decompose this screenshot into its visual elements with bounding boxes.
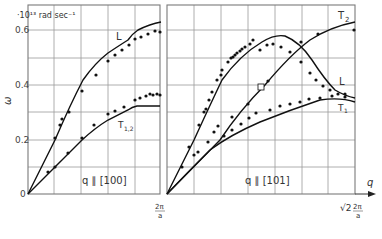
x-axis-label: q xyxy=(367,177,373,188)
left-T-sub: 1,2 xyxy=(124,125,134,132)
ytick-04: 0.4 xyxy=(15,80,30,90)
left-L-curve xyxy=(28,22,161,194)
right-end-prefix: √2 xyxy=(340,203,351,213)
left-panel-curves xyxy=(28,22,161,194)
ytick-0: 0 xyxy=(20,189,26,199)
left-L-label: L xyxy=(116,31,122,42)
ytick-02: 0.2 xyxy=(15,135,29,145)
open-square-marker xyxy=(258,84,264,90)
y-unit-label: ·10¹³ rad sec⁻¹ xyxy=(17,11,75,20)
ytick-06: 0.6 xyxy=(15,25,30,35)
right-T2-sub: 2 xyxy=(345,16,349,24)
right-end-num: 2π xyxy=(353,203,362,211)
left-panel-points xyxy=(46,29,161,173)
right-T2-curve xyxy=(167,22,355,194)
right-panel-curves xyxy=(167,22,355,194)
left-T-label: T xyxy=(117,120,124,130)
right-end-den: a xyxy=(356,212,360,220)
right-T2-label: T xyxy=(337,10,345,21)
left-panel-label: q ∥ [100] xyxy=(82,175,127,187)
y-axis-label: ω xyxy=(2,97,13,105)
right-T1-label: T xyxy=(337,103,344,113)
right-L-label: L xyxy=(339,76,345,87)
right-panel-label: q ∥ [101] xyxy=(245,175,290,187)
left-end-num: 2π xyxy=(155,203,164,211)
right-T1-sub: 1 xyxy=(344,107,348,114)
dispersion-chart: 0.6 0.4 0.2 0 ·10¹³ rad sec⁻¹ ω L T 1,2 … xyxy=(0,0,382,239)
left-end-den: a xyxy=(158,212,162,220)
x-axis-arrow xyxy=(355,191,376,197)
y-tick-labels: 0.6 0.4 0.2 0 xyxy=(15,25,30,199)
right-L-curve xyxy=(167,36,355,194)
